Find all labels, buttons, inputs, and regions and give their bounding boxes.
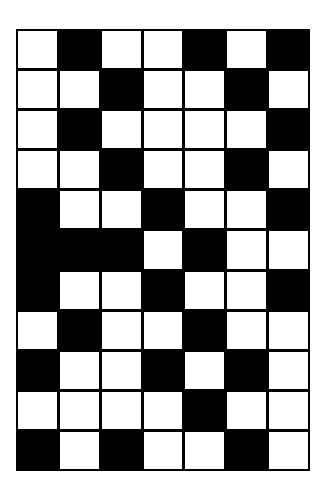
grid-cell-empty[interactable] (102, 191, 141, 228)
grid-cell-filled (227, 71, 266, 108)
grid-cell-filled (18, 231, 57, 268)
grid-cell-filled (18, 191, 57, 228)
grid-cell-empty[interactable] (18, 392, 57, 429)
grid-cell-empty[interactable] (269, 392, 308, 429)
grid-cell-empty[interactable] (227, 312, 266, 349)
crossword-grid (16, 29, 310, 471)
grid-cell-filled (102, 71, 141, 108)
grid-cell-empty[interactable] (144, 392, 183, 429)
grid-cell-filled (269, 272, 308, 309)
grid-cell-filled (227, 352, 266, 389)
grid-cell-empty[interactable] (144, 111, 183, 148)
grid-cell-empty[interactable] (18, 312, 57, 349)
grid-cell-empty[interactable] (144, 231, 183, 268)
grid-cell-filled (60, 111, 99, 148)
grid-cell-empty[interactable] (185, 151, 224, 188)
grid-cell-empty[interactable] (144, 151, 183, 188)
grid-cell-empty[interactable] (227, 191, 266, 228)
grid-cell-filled (269, 31, 308, 68)
grid-cell-empty[interactable] (102, 392, 141, 429)
grid-cell-empty[interactable] (60, 272, 99, 309)
grid-cell-empty[interactable] (185, 432, 224, 469)
grid-cell-filled (60, 231, 99, 268)
grid-cell-filled (60, 31, 99, 68)
grid-cell-empty[interactable] (269, 352, 308, 389)
grid-cell-empty[interactable] (60, 352, 99, 389)
grid-cell-empty[interactable] (60, 71, 99, 108)
grid-cell-filled (185, 231, 224, 268)
grid-cell-empty[interactable] (227, 31, 266, 68)
grid-cell-empty[interactable] (269, 151, 308, 188)
grid-cell-empty[interactable] (102, 31, 141, 68)
grid-cell-empty[interactable] (185, 272, 224, 309)
grid-cell-filled (60, 312, 99, 349)
grid-cell-filled (269, 191, 308, 228)
grid-cell-filled (227, 151, 266, 188)
grid-cell-empty[interactable] (269, 71, 308, 108)
grid-cell-empty[interactable] (18, 31, 57, 68)
grid-cell-empty[interactable] (269, 432, 308, 469)
grid-cell-empty[interactable] (18, 111, 57, 148)
grid-cell-empty[interactable] (102, 111, 141, 148)
grid-cell-empty[interactable] (102, 312, 141, 349)
grid-cell-empty[interactable] (185, 111, 224, 148)
grid-cell-filled (102, 432, 141, 469)
grid-cell-empty[interactable] (60, 151, 99, 188)
grid-cell-empty[interactable] (269, 231, 308, 268)
grid-cell-filled (144, 272, 183, 309)
grid-cell-empty[interactable] (18, 151, 57, 188)
grid-cell-empty[interactable] (185, 352, 224, 389)
grid-cell-empty[interactable] (227, 111, 266, 148)
grid-cell-filled (102, 231, 141, 268)
grid-cell-empty[interactable] (60, 432, 99, 469)
grid-cell-empty[interactable] (185, 71, 224, 108)
grid-cell-filled (185, 31, 224, 68)
grid-cell-filled (185, 392, 224, 429)
grid-cell-empty[interactable] (144, 31, 183, 68)
grid-cell-filled (18, 352, 57, 389)
grid-cell-empty[interactable] (144, 432, 183, 469)
grid-cell-empty[interactable] (18, 71, 57, 108)
grid-cell-filled (144, 191, 183, 228)
grid-cell-filled (269, 111, 308, 148)
grid-cell-empty[interactable] (102, 352, 141, 389)
grid-cell-filled (102, 151, 141, 188)
grid-cell-empty[interactable] (227, 392, 266, 429)
grid-cell-filled (227, 432, 266, 469)
grid-cell-empty[interactable] (269, 312, 308, 349)
grid-cell-empty[interactable] (227, 272, 266, 309)
grid-cell-empty[interactable] (60, 392, 99, 429)
grid-cell-filled (18, 272, 57, 309)
grid-cell-filled (18, 432, 57, 469)
grid-cell-empty[interactable] (60, 191, 99, 228)
grid-cell-empty[interactable] (144, 71, 183, 108)
grid-cell-filled (185, 312, 224, 349)
grid-cell-empty[interactable] (185, 191, 224, 228)
grid-cell-filled (144, 352, 183, 389)
grid-cell-empty[interactable] (102, 272, 141, 309)
grid-cell-empty[interactable] (227, 231, 266, 268)
grid-cell-empty[interactable] (144, 312, 183, 349)
